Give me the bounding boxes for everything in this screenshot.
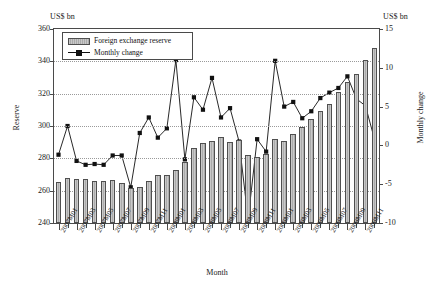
line-marker (318, 96, 322, 100)
right-axis-tick-label: 10 (385, 63, 415, 72)
gridline (54, 94, 379, 95)
line-marker (282, 105, 286, 109)
bar (363, 60, 369, 223)
right-axis-title: Monthly change (416, 88, 425, 148)
bar (327, 104, 333, 223)
left-axis-tick-label: 300 (20, 121, 50, 130)
x-axis-title: Month (0, 268, 434, 277)
bar (318, 111, 324, 223)
left-axis-tick-label: 240 (20, 218, 50, 227)
legend-bar-swatch-icon (68, 38, 90, 45)
line-marker (56, 153, 60, 157)
left-axis-tick-label: 340 (20, 56, 50, 65)
bar (336, 92, 342, 223)
line-marker (93, 162, 97, 166)
bar (354, 74, 360, 223)
line-marker (300, 116, 304, 120)
left-axis-tick-label: 360 (20, 24, 50, 33)
line-marker (210, 76, 214, 80)
bar (345, 82, 351, 223)
gridline (54, 61, 379, 62)
right-axis-unit-label: US$ bn (383, 12, 408, 21)
right-axis-tick-label: -5 (385, 179, 415, 188)
left-axis-unit-label: US$ bn (50, 12, 75, 21)
line-marker (147, 115, 151, 119)
line-marker (264, 150, 268, 154)
line-marker (345, 74, 349, 78)
line-marker (120, 153, 124, 157)
line-marker (156, 136, 160, 140)
line-marker (336, 86, 340, 90)
line-marker (228, 106, 232, 110)
line-marker (84, 163, 88, 167)
line-marker (192, 95, 196, 99)
left-axis-tick-label: 320 (20, 89, 50, 98)
line-marker (219, 115, 223, 119)
line-marker (102, 163, 106, 167)
legend-label: Foreign exchange reserve (94, 35, 171, 47)
right-axis-tick-label: 5 (385, 102, 415, 111)
line-marker (111, 153, 115, 157)
line-marker (255, 137, 259, 141)
chart-figure: US$ bn US$ bn Reserve Monthly change Mon… (0, 0, 434, 286)
line-marker (291, 100, 295, 104)
right-axis-tick-label: -10 (385, 218, 415, 227)
line-marker (138, 131, 142, 135)
left-axis-tick-label: 260 (20, 186, 50, 195)
line-marker (309, 109, 313, 113)
bar (56, 182, 62, 223)
line-marker (74, 159, 78, 163)
legend-square-marker-icon (76, 50, 82, 56)
legend-label: Monthly change (94, 47, 143, 59)
bar (372, 48, 378, 223)
chart-legend: Foreign exchange reserve Monthly change (62, 32, 193, 60)
right-axis-tick-label: 15 (385, 24, 415, 33)
left-axis-tick-label: 280 (20, 153, 50, 162)
right-axis-tick-label: 0 (385, 140, 415, 149)
line-marker (201, 108, 205, 112)
